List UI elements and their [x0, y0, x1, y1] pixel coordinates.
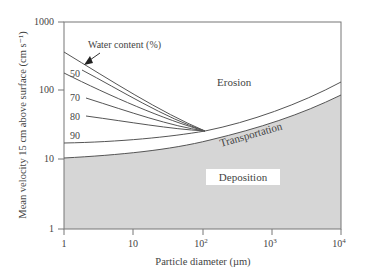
y-tick-1000: 1000	[34, 16, 54, 27]
curve-60	[64, 73, 205, 131]
y-axis-title: Mean velocity 15 cm above surface (cm s⁻…	[17, 31, 29, 219]
curve-90	[64, 131, 205, 143]
y-tick-1: 1	[49, 223, 54, 234]
arrow-line	[90, 53, 100, 60]
x-axis-title: Particle diameter (µm)	[155, 256, 251, 268]
label-90: 90	[70, 130, 80, 141]
water-content-label: Water content (%)	[88, 39, 161, 51]
deposition-region	[64, 95, 341, 229]
x-tick-1000: 103	[263, 237, 277, 249]
label-70: 70	[70, 92, 80, 103]
label-50: 50	[70, 68, 80, 79]
y-tick-10: 10	[44, 153, 54, 164]
y-axis	[58, 22, 64, 229]
curve-80	[86, 116, 205, 131]
x-tick-100: 102	[194, 237, 208, 249]
label-80: 80	[70, 111, 80, 122]
erosion-label: Erosion	[217, 76, 252, 88]
sediment-velocity-chart: 1000 100 10 1 1 10 102 103 104 Particle …	[0, 0, 368, 274]
x-tick-10: 10	[128, 238, 138, 249]
curve-50	[82, 70, 205, 131]
x-tick-1: 1	[62, 238, 67, 249]
arrow-head-icon	[84, 56, 93, 65]
x-axis	[64, 229, 341, 235]
y-tick-100: 100	[39, 84, 54, 95]
deposition-label: Deposition	[219, 171, 268, 183]
water-content-curves	[64, 52, 205, 143]
x-tick-10000: 104	[332, 237, 346, 249]
